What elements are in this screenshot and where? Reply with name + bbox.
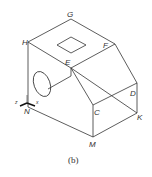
vertex-label-d: D (130, 89, 136, 98)
vertex-label-k: K (137, 113, 143, 122)
vertex-label-h: H (22, 38, 28, 47)
figure-caption: (b) (68, 155, 79, 165)
z-axis (20, 103, 27, 106)
vertex-label-c: C (94, 108, 100, 117)
edge-e-c (71, 68, 93, 105)
vertex-label-e: E (65, 58, 71, 67)
top-face (28, 19, 115, 68)
axis-label-x: x (35, 99, 39, 105)
edge-f-d (115, 44, 137, 83)
edge-n-m (28, 107, 93, 137)
vertex-label-g: G (67, 10, 73, 19)
edge-left-face (48, 76, 71, 89)
vertex-label-m: M (89, 140, 96, 149)
axis-label-z: z (14, 99, 18, 105)
solid-edges (28, 19, 137, 137)
isometric-solid-diagram: z x G H F E D C K M N (b) (0, 0, 152, 177)
vertex-label-n: N (24, 107, 30, 116)
vertex-label-f: F (103, 41, 109, 50)
circular-hole (30, 69, 54, 99)
axis-triad: z x (14, 95, 39, 106)
square-hole (57, 37, 86, 53)
edge-e-k (71, 68, 137, 113)
